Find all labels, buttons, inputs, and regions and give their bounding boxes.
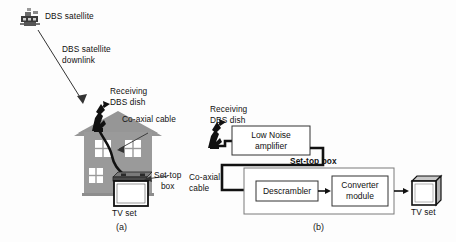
label-receiving-dbs-dish-b: Receiving DBS dish [210, 104, 247, 125]
caption-panel-b: (b) [313, 222, 324, 232]
label-receiving-dbs-dish-a: Receiving DBS dish [110, 86, 147, 107]
label-dbs-satellite: DBS satellite [45, 11, 94, 22]
settop-to-tv-arrow-icon [394, 188, 409, 194]
descrambler-label: Descrambler [256, 186, 318, 197]
label-set-top-box-b: Set-top box [290, 156, 337, 167]
satellite-icon [20, 8, 40, 26]
low-noise-amplifier-label: Low Noise amplifier [232, 130, 310, 151]
label-coaxial-cable-b: Co-axial cable [189, 172, 220, 193]
label-set-top-box-a: Set-top box [154, 170, 181, 191]
label-tv-set-b: TV set [411, 207, 436, 218]
label-dbs-satellite-downlink: DBS satellite downlink [62, 44, 111, 65]
dbs-system-figure: DBS satellite DBS satellite downlink Rec… [0, 0, 456, 242]
downlink-arrow-icon [38, 30, 87, 104]
caption-panel-a: (a) [116, 222, 127, 232]
tv-icon-a [114, 181, 148, 206]
label-coaxial-cable-a: Co-axial cable [122, 114, 176, 125]
label-tv-set-a: TV set [112, 208, 137, 219]
tv-icon-b [412, 176, 441, 205]
converter-module-label: Converter module [332, 180, 388, 201]
